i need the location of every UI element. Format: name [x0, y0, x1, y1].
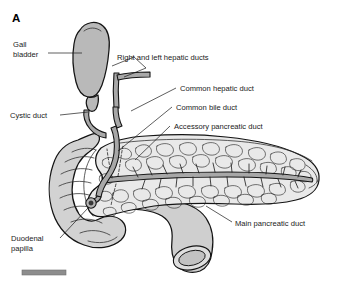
- label-duodenal-papilla-line2: papilla: [11, 244, 34, 253]
- label-cystic-duct: Cystic duct: [10, 111, 48, 120]
- anatomy-diagram: A: [0, 0, 337, 281]
- leader-main-pancreatic-duct: [206, 206, 232, 222]
- label-gall-bladder-line2: bladder: [13, 50, 39, 59]
- scale-bar: [22, 270, 66, 275]
- leader-common-hepatic-duct: [131, 88, 176, 111]
- label-duodenal-papilla-line1: Duodenal: [11, 234, 44, 243]
- figure-container: A: [0, 0, 337, 281]
- gallbladder: [73, 23, 109, 112]
- label-main-pancreatic-duct: Main pancreatic duct: [235, 219, 306, 228]
- label-common-bile-duct: Common bile duct: [176, 103, 238, 112]
- cystic-duct-structure: [84, 110, 106, 138]
- label-right-and-left-hepatic-ducts: Right and left hepatic ducts: [117, 53, 209, 62]
- hepatic-ducts-structure: [112, 57, 150, 128]
- panel-letter: A: [12, 12, 20, 24]
- duodenal-papilla-structure: [86, 198, 96, 208]
- label-gall-bladder-line1: Gall: [13, 40, 27, 49]
- label-accessory-pancreatic-duct: Accessory pancreatic duct: [174, 122, 264, 131]
- label-common-hepatic-duct: Common hepatic duct: [180, 84, 255, 93]
